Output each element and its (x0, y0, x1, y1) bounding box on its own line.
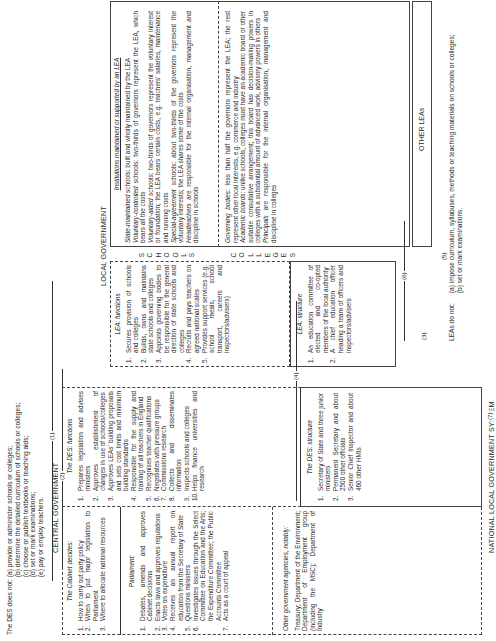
des-structure-item: 1.Secretary of State and three junior mi… (317, 393, 332, 501)
colleges-section: Governing bodies: less than half the gov… (224, 11, 277, 243)
schools-vertical-label: SCHOOLS (138, 251, 197, 259)
lea-function-item: 3.Appoints governing bodies to be respon… (155, 265, 185, 363)
other-agencies-section: Other government agencies, notably: Trea… (282, 511, 324, 631)
parliament-item: 5.Questions ministers (184, 511, 192, 631)
lea-function-item: 2.Builds, owns and maintains state schoo… (140, 265, 155, 363)
cabinet-item: 1.How to carry out party policy (77, 511, 85, 631)
des-function-item: 10.Helps finance universities and resear… (191, 391, 206, 501)
colleges-vertical-label: COLLEGES (230, 251, 297, 259)
lea-structure-title: LEA: structure (296, 265, 304, 363)
parliament-item: 3.Votes on expenditure (161, 511, 169, 631)
connector-label-1: (1) (48, 431, 56, 441)
parliament-item: 2.Enacts laws and approves regulations (154, 511, 162, 631)
lea-function-item: 1.Secures provision of schools and colle… (125, 265, 140, 363)
des-structure-title: The DES: structure (306, 393, 314, 501)
des-function-item: 6.Negotiates with pressure groups (153, 391, 161, 501)
cabinet-item: 2.When to put major legislation to Parli… (84, 511, 99, 631)
local-government-title: LOCAL GOVERNMENT (100, 206, 108, 286)
des-does-not-item: (d) set or mark examinations; (29, 337, 37, 577)
connector-line-2 (62, 369, 63, 569)
des-function-item: 5.Recognises teacher qualifications (145, 391, 153, 501)
college-item: Principals are responsible for the inter… (262, 11, 277, 243)
lea-function-item: 5.Provides support services (e.g. school… (201, 265, 231, 363)
education-system-diagram: The DES does not: (a) provide or adminis… (0, 0, 496, 641)
des-structure-item: 2.Permanent Secretary and about 2500 oth… (332, 393, 347, 501)
des-function-item: 3.Approves LEAs' building proposals and … (107, 391, 130, 501)
lea-functions-title: LEA: functions (114, 265, 122, 363)
connector-label-3: (3) (420, 331, 428, 341)
lea-function-item: 4.Recruits and pays teachers on agreed n… (185, 265, 200, 363)
lea-functions-section: LEA: functions 1.Secures provision of sc… (114, 265, 231, 363)
school-type-item: Voluntary-aided schools: two-thirds of g… (147, 11, 170, 243)
des-does-not-item: (c) choose or publish textbooks or teach… (22, 337, 30, 577)
cabinet-section: The Cabinet decides: 1.How to carry out … (66, 511, 107, 631)
des-function-item: 2.Approves establishment of changes in u… (92, 391, 107, 501)
connector-label-2: (2) (58, 471, 66, 481)
nlgs-title: NATIONAL LOCAL GOVERNMENT SYSTEM (488, 401, 496, 553)
parliament-item: 4.Receives an annual report on education… (169, 511, 184, 631)
leas-do-not-lead: LEAs do not: (448, 295, 456, 341)
schools-colleges-divider (218, 1, 219, 247)
parliament-divider (272, 507, 273, 635)
cabinet-title: The Cabinet decides: (66, 511, 74, 631)
parliament-item: 1.Debates, amends and approves Cabinet d… (139, 511, 154, 631)
des-function-item: 8.Collects and disseminates information (168, 391, 183, 501)
des-functions-title: The DES: functions (66, 391, 74, 501)
school-type-item: State-maintained schools: built and whol… (124, 11, 132, 243)
connector-label-5: (5) (440, 251, 448, 261)
connector-label-4: (4) (292, 371, 300, 381)
college-item: Academic boards: unlike schools, college… (239, 11, 262, 243)
schools-section: State-maintained schools: built and whol… (124, 11, 200, 243)
other-leas-box (412, 1, 432, 247)
school-type-item: Headteachers are responsible for the int… (185, 11, 200, 243)
lea-structure-item: 2.A chief education officer heading a te… (329, 265, 352, 363)
parliament-title: Parliament: (128, 511, 136, 631)
des-structure-item: 3.Senior Chief Inspector and about 460 o… (347, 393, 362, 501)
parliament-item: 6.Investigates issues through the Select… (192, 511, 222, 631)
cabinet-item: 3.Where to allocate national resources (99, 511, 107, 631)
connector-label-7: (7) (486, 411, 494, 421)
lea-structure-section: LEA: structure 1.An education committee … (296, 265, 352, 363)
lea-structure-item: 1.An education committee of elected and … (307, 265, 330, 363)
school-type-item: Special-agreement schools: about two-thi… (170, 11, 185, 243)
des-does-not-item: (e) pay or employ teachers. (37, 337, 45, 577)
connector-line-6 (404, 221, 405, 341)
college-item: Governing bodies: less than half the gov… (224, 11, 239, 243)
des-functions-section: The DES: functions 1.Prepares legislatio… (66, 391, 206, 501)
school-type-item: Voluntary-controlled schools: two-thirds… (132, 11, 147, 243)
institutions-title: Institutions maintained or supported by … (113, 5, 121, 243)
parliament-section: Parliament: 1.Debates, amends and approv… (128, 511, 230, 631)
connector-line-4 (296, 301, 297, 501)
des-does-not-item: (a) provide or administer schools or col… (6, 337, 14, 577)
des-does-not-note: The DES does not: (a) provide or adminis… (6, 335, 45, 635)
other-agencies-title: Other government agencies, notably: (282, 511, 290, 631)
des-does-not-item: (b) determine the detailed curriculum of… (14, 337, 22, 577)
leas-do-not-note: LEAs do not: (a) impose curriculum, syll… (448, 1, 464, 341)
des-does-not-lead: The DES does not: (6, 579, 14, 635)
leas-do-not-item: (a) impose curriculum, syllabuses, metho… (448, 3, 456, 293)
other-agencies-text: Treasury; Department of the Environment;… (294, 511, 324, 631)
parliament-item: 7.Acts as a court of appeal (222, 511, 230, 631)
des-function-item: 9.Inspects schools and colleges (183, 391, 191, 501)
connector-label-6: (6) (400, 271, 408, 281)
des-function-item: 4.Responsible for the supply and trainin… (130, 391, 145, 501)
cabinet-divider (120, 507, 121, 635)
des-function-item: 1.Prepares legislation and advises minis… (77, 391, 92, 501)
des-structure-section: The DES: structure 1.Secretary of State … (306, 393, 362, 501)
des-function-item: 7.Commissions research (160, 391, 168, 501)
leas-do-not-item: (b) set or mark examinations. (456, 3, 464, 293)
